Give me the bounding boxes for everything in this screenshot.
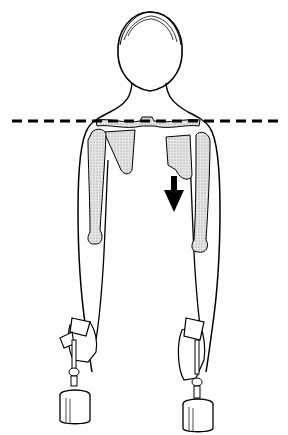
right-weight xyxy=(178,318,213,432)
medical-illustration xyxy=(0,0,288,435)
downward-arrow xyxy=(164,176,184,212)
head xyxy=(118,12,182,91)
